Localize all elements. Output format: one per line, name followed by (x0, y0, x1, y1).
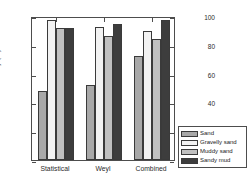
bar (86, 85, 95, 160)
y-tick-label: 100 (204, 14, 215, 21)
legend-swatch-icon (181, 131, 198, 137)
y-tick-mark-right (170, 18, 174, 19)
y-tick-mark-right (170, 76, 174, 77)
legend-label: Muddy sand (200, 148, 233, 155)
y-tick-mark (32, 162, 36, 163)
y-tick-mark (32, 47, 36, 48)
y-tick-label: 80 (208, 42, 215, 49)
y-tick-mark-right (170, 133, 174, 134)
legend-label: Gravelly sand (200, 139, 237, 146)
y-tick-label: 60 (208, 71, 215, 78)
bar (152, 39, 161, 160)
chart-figure: Classification accuracy (%) 020406080100… (0, 0, 249, 186)
bar (95, 27, 104, 160)
bar (65, 28, 74, 160)
bar (38, 91, 47, 160)
y-tick-mark-right (170, 104, 174, 105)
bar (113, 24, 122, 160)
x-tick-label-combined: Combined (136, 165, 167, 172)
legend-item[interactable]: Sand (181, 129, 244, 138)
y-tick-mark (32, 18, 36, 19)
legend-item[interactable]: Sandy mud (181, 156, 244, 165)
chart-legend: SandGravelly sandMuddy sandSandy mud (178, 126, 247, 168)
legend-label: Sand (200, 130, 214, 137)
legend-swatch-icon (181, 149, 198, 155)
x-tick-mark-top (56, 18, 57, 22)
bar (161, 20, 170, 160)
legend-swatch-icon (181, 158, 198, 164)
y-tick-label: 40 (208, 100, 215, 107)
legend-item[interactable]: Muddy sand (181, 147, 244, 156)
y-tick-mark (32, 133, 36, 134)
legend-label: Sandy mud (200, 157, 230, 164)
x-tick-label-statistical: Statistical (40, 165, 69, 172)
legend-swatch-icon (181, 140, 198, 146)
x-tick-label-weyl: Weyl (96, 165, 111, 172)
x-tick-mark-top (152, 18, 153, 22)
y-tick-mark (32, 76, 36, 77)
y-tick-mark (32, 104, 36, 105)
bar (56, 28, 65, 160)
bar (134, 56, 143, 160)
y-tick-mark-right (170, 162, 174, 163)
y-tick-mark-right (170, 47, 174, 48)
legend-item[interactable]: Gravelly sand (181, 138, 244, 147)
bar (47, 20, 56, 160)
x-tick-mark-top (104, 18, 105, 22)
bar (104, 36, 113, 160)
bar (143, 31, 152, 160)
plot-area (31, 17, 175, 161)
